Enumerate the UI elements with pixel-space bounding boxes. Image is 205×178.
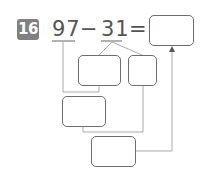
split-tens-box[interactable] bbox=[78, 55, 121, 86]
subtrahend: 31 bbox=[101, 16, 130, 42]
arrow-up-icon bbox=[169, 46, 175, 52]
split-ones-box[interactable] bbox=[128, 55, 157, 86]
minuend: 97 bbox=[52, 16, 81, 42]
final-box[interactable] bbox=[91, 136, 136, 167]
intermediate-box[interactable] bbox=[62, 96, 106, 127]
equals-sign: = bbox=[129, 16, 148, 42]
problem-number-badge: 16 bbox=[17, 19, 39, 40]
answer-box[interactable] bbox=[149, 15, 194, 46]
minus-operator: − bbox=[80, 16, 99, 42]
